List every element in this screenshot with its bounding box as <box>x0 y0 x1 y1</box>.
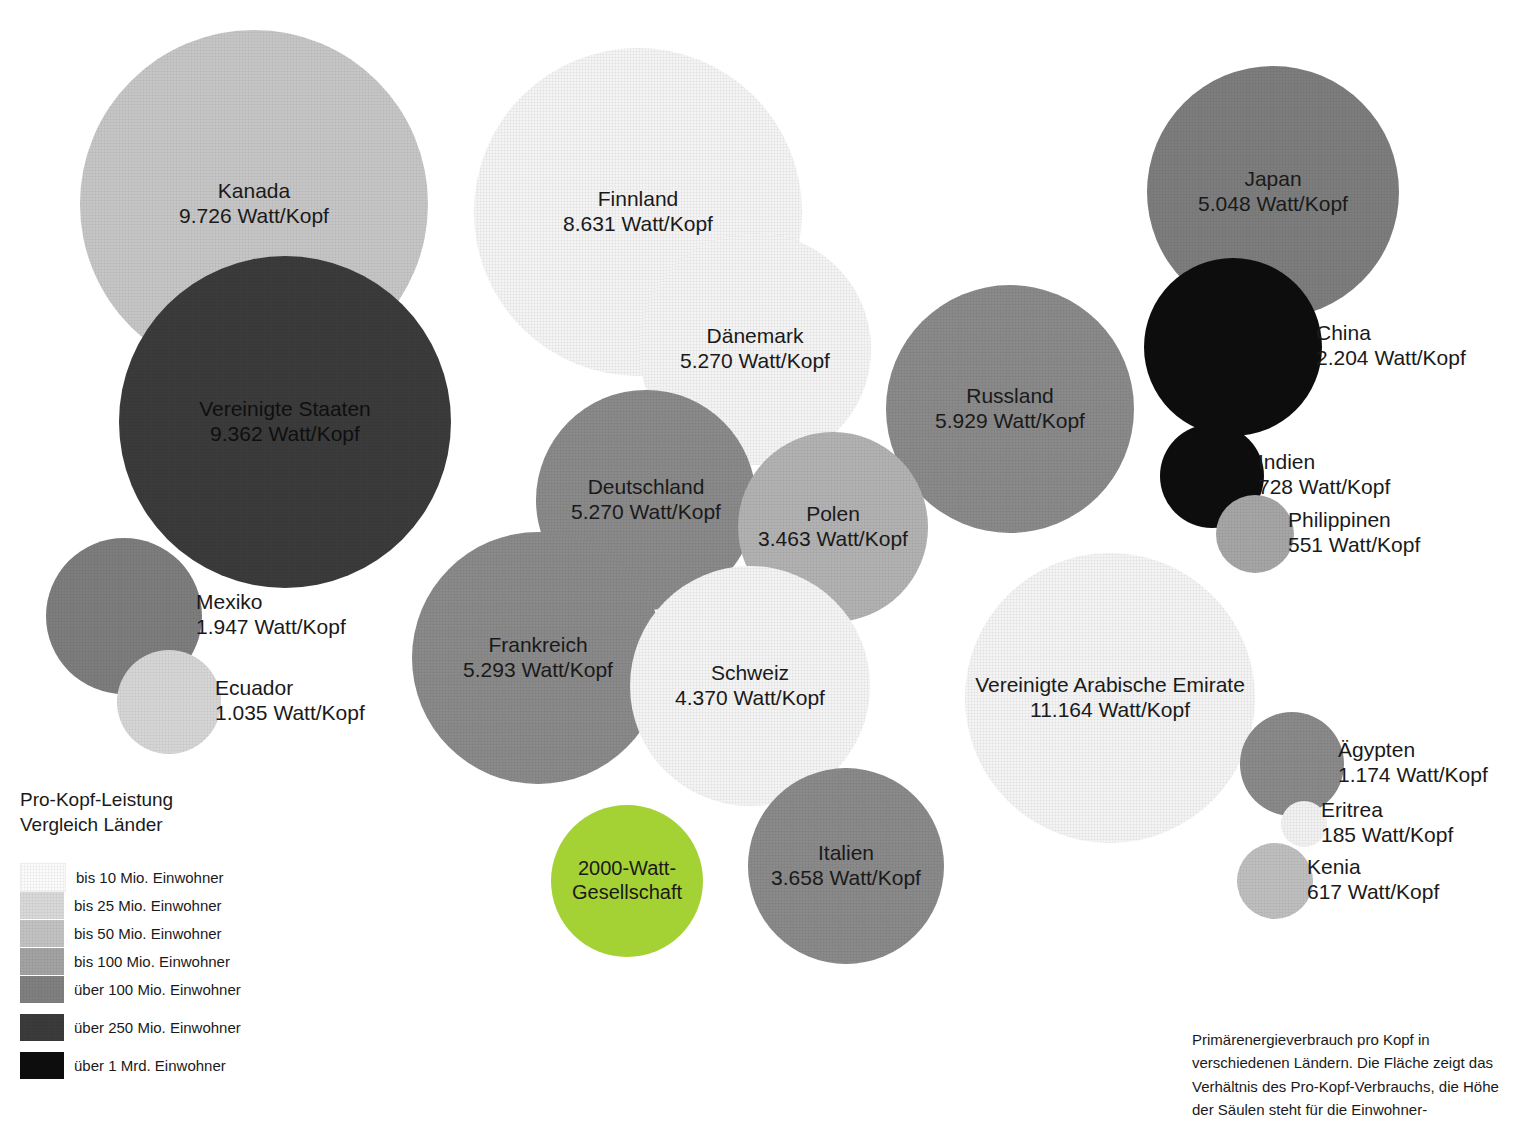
chart-caption: Primärenergieverbrauch pro Kopf in versc… <box>1192 1028 1522 1121</box>
bubble-country-name: Frankreich <box>463 633 613 658</box>
bubble-value: 3.658 Watt/Kopf <box>771 866 921 891</box>
legend-item-label: über 250 Mio. Einwohner <box>74 1019 241 1036</box>
bubble-country-name: Schweiz <box>675 661 825 686</box>
bubble-country-name: Dänemark <box>680 324 830 349</box>
bubble-country-name: Deutschland <box>571 475 721 500</box>
bubble-value: 551 Watt/Kopf <box>1288 533 1420 558</box>
bubble-value: 5.929 Watt/Kopf <box>935 409 1085 434</box>
legend-swatch <box>20 892 64 919</box>
bubble-value: 5.270 Watt/Kopf <box>571 500 721 525</box>
bubble-label: Ägypten1.174 Watt/Kopf <box>1338 738 1488 788</box>
bubble-label: Frankreich5.293 Watt/Kopf <box>457 633 619 683</box>
bubble-country-name: Russland <box>935 384 1085 409</box>
bubble-label: Italien3.658 Watt/Kopf <box>765 841 927 891</box>
legend-title-line2: Vergleich Länder <box>20 814 163 835</box>
bubble-value: 9.726 Watt/Kopf <box>179 204 329 229</box>
bubble-vereinigte-staaten[interactable]: Vereinigte Staaten9.362 Watt/Kopf <box>119 256 451 588</box>
bubble-country-name: Kenia <box>1307 855 1439 880</box>
bubble-label: Vereinigte Arabische Emirate11.164 Watt/… <box>969 673 1251 723</box>
legend-title-line1: Pro-Kopf-Leistung <box>20 789 173 810</box>
bubble-value: 5.048 Watt/Kopf <box>1198 192 1348 217</box>
bubble-country-name: Philippinen <box>1288 508 1420 533</box>
legend-swatch <box>20 976 64 1003</box>
legend-item[interactable]: bis 25 Mio. Einwohner <box>20 891 320 919</box>
legend-item[interactable]: über 250 Mio. Einwohner <box>20 1013 320 1041</box>
bubble-vereinigte-arabische-emirate[interactable]: Vereinigte Arabische Emirate11.164 Watt/… <box>965 553 1255 843</box>
bubble-value: 5.270 Watt/Kopf <box>680 349 830 374</box>
bubble-label: Philippinen551 Watt/Kopf <box>1288 508 1420 558</box>
bubble-label: Vereinigte Staaten9.362 Watt/Kopf <box>193 397 377 447</box>
bubble-value: 8.631 Watt/Kopf <box>563 212 713 237</box>
bubble-label: Deutschland5.270 Watt/Kopf <box>565 475 727 525</box>
bubble-italien[interactable]: Italien3.658 Watt/Kopf <box>748 768 944 964</box>
bubble-value: 5.293 Watt/Kopf <box>463 658 613 683</box>
bubble-country-name: Polen <box>758 502 908 527</box>
legend-spacer <box>20 1041 320 1051</box>
bubble-label: Mexiko1.947 Watt/Kopf <box>196 590 346 640</box>
bubble-country-name: Vereinigte Arabische Emirate <box>975 673 1245 698</box>
legend-swatch <box>20 1052 64 1079</box>
legend-item-label: über 1 Mrd. Einwohner <box>74 1057 226 1074</box>
bubble-label: Ecuador1.035 Watt/Kopf <box>215 676 365 726</box>
legend-swatch <box>20 1014 64 1041</box>
legend-item[interactable]: bis 50 Mio. Einwohner <box>20 919 320 947</box>
legend-item-label: über 100 Mio. Einwohner <box>74 981 241 998</box>
bubble-value: 9.362 Watt/Kopf <box>199 422 371 447</box>
bubble-label: Japan5.048 Watt/Kopf <box>1192 167 1354 217</box>
bubble-label: 2000-Watt-Gesellschaft <box>572 857 682 904</box>
legend-swatch <box>20 948 64 975</box>
bubble-value: 3.463 Watt/Kopf <box>758 527 908 552</box>
bubble-value: 1.947 Watt/Kopf <box>196 615 346 640</box>
bubble-country-name: Kanada <box>179 179 329 204</box>
legend-swatch <box>20 920 64 947</box>
legend: Pro-Kopf-Leistung Vergleich Länder bis 1… <box>20 788 320 1079</box>
bubble-label: Finnland8.631 Watt/Kopf <box>557 187 719 237</box>
legend-item[interactable]: über 100 Mio. Einwohner <box>20 975 320 1003</box>
bubble-philippinen[interactable] <box>1216 495 1294 573</box>
highlight-name-line1: 2000-Watt- <box>572 857 682 881</box>
bubble-value: 4.370 Watt/Kopf <box>675 686 825 711</box>
legend-item-label: bis 100 Mio. Einwohner <box>74 953 230 970</box>
bubble-2000-watt-gesellschaft[interactable]: 2000-Watt-Gesellschaft <box>551 805 703 957</box>
bubble-value: 11.164 Watt/Kopf <box>975 698 1245 723</box>
bubble-country-name: Japan <box>1198 167 1348 192</box>
bubble-country-name: Ägypten <box>1338 738 1488 763</box>
legend-item-label: bis 10 Mio. Einwohner <box>76 869 224 886</box>
bubble-value: 2.204 Watt/Kopf <box>1316 346 1466 371</box>
legend-item[interactable]: bis 100 Mio. Einwohner <box>20 947 320 975</box>
bubble-russland[interactable]: Russland5.929 Watt/Kopf <box>886 285 1134 533</box>
bubble-label: Kanada9.726 Watt/Kopf <box>173 179 335 229</box>
bubble-label: Kenia617 Watt/Kopf <box>1307 855 1439 905</box>
bubble-label: Indien728 Watt/Kopf <box>1258 450 1390 500</box>
bubble-country-name: Italien <box>771 841 921 866</box>
bubble-country-name: Eritrea <box>1321 798 1453 823</box>
legend-items: bis 10 Mio. Einwohnerbis 25 Mio. Einwohn… <box>20 863 320 1079</box>
legend-item[interactable]: über 1 Mrd. Einwohner <box>20 1051 320 1079</box>
bubble-value: 1.174 Watt/Kopf <box>1338 763 1488 788</box>
bubble-label: Russland5.929 Watt/Kopf <box>929 384 1091 434</box>
legend-item-label: bis 50 Mio. Einwohner <box>74 925 222 942</box>
legend-title: Pro-Kopf-Leistung Vergleich Länder <box>20 788 320 837</box>
bubble-country-name: Ecuador <box>215 676 365 701</box>
bubble-value: 185 Watt/Kopf <box>1321 823 1453 848</box>
bubble-value: 617 Watt/Kopf <box>1307 880 1439 905</box>
bubble-china[interactable] <box>1144 258 1322 436</box>
bubble-label: China2.204 Watt/Kopf <box>1316 321 1466 371</box>
legend-spacer <box>20 1003 320 1013</box>
bubble-frankreich[interactable]: Frankreich5.293 Watt/Kopf <box>412 532 664 784</box>
legend-item-label: bis 25 Mio. Einwohner <box>74 897 222 914</box>
bubble-country-name: China <box>1316 321 1466 346</box>
bubble-label: Polen3.463 Watt/Kopf <box>752 502 914 552</box>
highlight-name-line2: Gesellschaft <box>572 881 682 905</box>
bubble-ecuador[interactable] <box>117 650 221 754</box>
bubble-country-name: Mexiko <box>196 590 346 615</box>
bubble-value: 1.035 Watt/Kopf <box>215 701 365 726</box>
bubble-country-name: Indien <box>1258 450 1390 475</box>
bubble-country-name: Finnland <box>563 187 713 212</box>
bubble-value: 728 Watt/Kopf <box>1258 475 1390 500</box>
legend-item[interactable]: bis 10 Mio. Einwohner <box>20 863 320 891</box>
bubble-label: Dänemark5.270 Watt/Kopf <box>674 324 836 374</box>
bubble-country-name: Vereinigte Staaten <box>199 397 371 422</box>
legend-swatch <box>20 863 66 892</box>
bubble-kenia[interactable] <box>1237 843 1313 919</box>
